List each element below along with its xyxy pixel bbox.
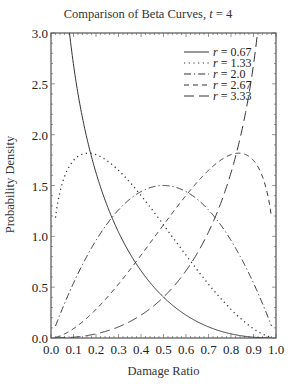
x-tick-label: 0.2 bbox=[88, 342, 104, 357]
x-tick-label: 0.8 bbox=[223, 342, 239, 357]
beta-curves-plot: 0.00.10.20.30.40.50.60.70.80.91.00.00.51… bbox=[0, 0, 296, 387]
y-tick-label: 2.0 bbox=[32, 128, 48, 143]
x-tick-label: 0.3 bbox=[110, 342, 126, 357]
y-tick-label: 1.5 bbox=[32, 179, 48, 194]
x-tick-label: 0.6 bbox=[178, 342, 195, 357]
y-tick-label: 3.0 bbox=[32, 26, 48, 41]
x-tick-label: 0.1 bbox=[65, 342, 81, 357]
curve-r-2 bbox=[56, 186, 272, 327]
chart-legend: r = 0.67r = 1.33r = 2.0r = 2.67r = 3.33 bbox=[184, 45, 251, 103]
x-tick-label: 1.0 bbox=[268, 342, 284, 357]
legend-label: r = 3.33 bbox=[213, 89, 251, 103]
plot-axes: 0.00.10.20.30.40.50.60.70.80.91.00.00.51… bbox=[32, 26, 284, 357]
y-tick-label: 2.5 bbox=[32, 77, 48, 92]
x-tick-label: 0.9 bbox=[245, 342, 261, 357]
y-tick-label: 0.0 bbox=[32, 331, 48, 346]
y-tick-label: 0.5 bbox=[32, 280, 48, 295]
x-tick-label: 0.4 bbox=[133, 342, 150, 357]
x-tick-label: 0.5 bbox=[155, 342, 171, 357]
curve-r-1.33 bbox=[56, 153, 272, 337]
y-tick-label: 1.0 bbox=[32, 229, 48, 244]
x-tick-label: 0.7 bbox=[200, 342, 217, 357]
curve-r-2.67 bbox=[56, 153, 272, 337]
